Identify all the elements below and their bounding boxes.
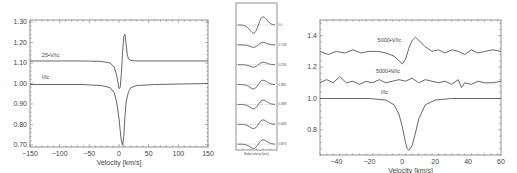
y-tick-label: 1.2 — [307, 63, 317, 70]
series-label: I/Ic — [42, 74, 50, 80]
phase-label: 0.6974 — [279, 142, 287, 146]
phase-label: 0.2765 — [279, 63, 287, 67]
y-tick-label: 1.10 — [13, 59, 27, 66]
x-tick-label: 0 — [400, 158, 404, 165]
series-line — [30, 84, 208, 145]
y-tick-label: 1.00 — [13, 80, 27, 87]
x-tick-label: 150 — [202, 150, 214, 157]
x-tick-label: 60 — [497, 158, 505, 165]
plot-frame — [320, 20, 501, 155]
x-tick-label: −100 — [52, 150, 68, 157]
phase-label: 0.6036 — [279, 122, 287, 126]
x-tick-label: −20 — [363, 158, 375, 165]
y-tick-label: 0.70 — [13, 141, 27, 148]
series-line — [320, 37, 501, 64]
series-label: 5000•V/Ic — [378, 37, 402, 43]
x-tick-label: 100 — [172, 150, 184, 157]
phase-label: 0.3881 — [279, 83, 287, 87]
series-line — [30, 34, 208, 88]
y-tick-label: 1.30 — [13, 18, 27, 25]
x-tick-label: −50 — [83, 150, 95, 157]
y-tick-label: 1.20 — [13, 39, 27, 46]
inset-phase-profiles-plot: 0.00.17580.27650.38810.48890.60360.6974R… — [236, 3, 287, 156]
right-spectrum-plot: −40−2002040600.81.01.21.4Velocity [km/s]… — [307, 20, 505, 173]
y-tick-label: 0.8 — [307, 126, 317, 133]
figure-canvas: −150−100−500501001500.700.800.901.001.10… — [0, 0, 517, 173]
x-tick-label: 40 — [464, 158, 472, 165]
x-tick-label: 20 — [431, 158, 439, 165]
series-line — [320, 98, 501, 150]
series-label: 25•V/Ic — [42, 52, 60, 58]
series-label: 5000•N/Ic — [376, 68, 400, 74]
x-axis-title: Velocity [km/s] — [97, 159, 142, 167]
x-axis-title: Radial velocity (km/s) — [244, 152, 269, 156]
y-tick-label: 1.4 — [307, 32, 317, 39]
series-line — [320, 77, 501, 88]
x-tick-label: 50 — [145, 150, 153, 157]
y-tick-label: 0.90 — [13, 100, 27, 107]
x-tick-label: 0 — [117, 150, 121, 157]
phase-label: 0.1758 — [279, 43, 287, 47]
phase-label: 0.4889 — [279, 102, 287, 106]
y-tick-label: 0.80 — [13, 121, 27, 128]
y-tick-label: 1.0 — [307, 95, 317, 102]
x-tick-label: −40 — [331, 158, 343, 165]
phase-label: 0.0 — [279, 23, 283, 27]
left-spectrum-plot: −150−100−500501001500.700.800.901.001.10… — [13, 18, 214, 167]
x-tick-label: −150 — [22, 150, 38, 157]
plot-frame — [30, 20, 208, 147]
x-axis-title: Velocity [km/s] — [388, 167, 433, 173]
series-label: I/Ic — [381, 89, 389, 95]
